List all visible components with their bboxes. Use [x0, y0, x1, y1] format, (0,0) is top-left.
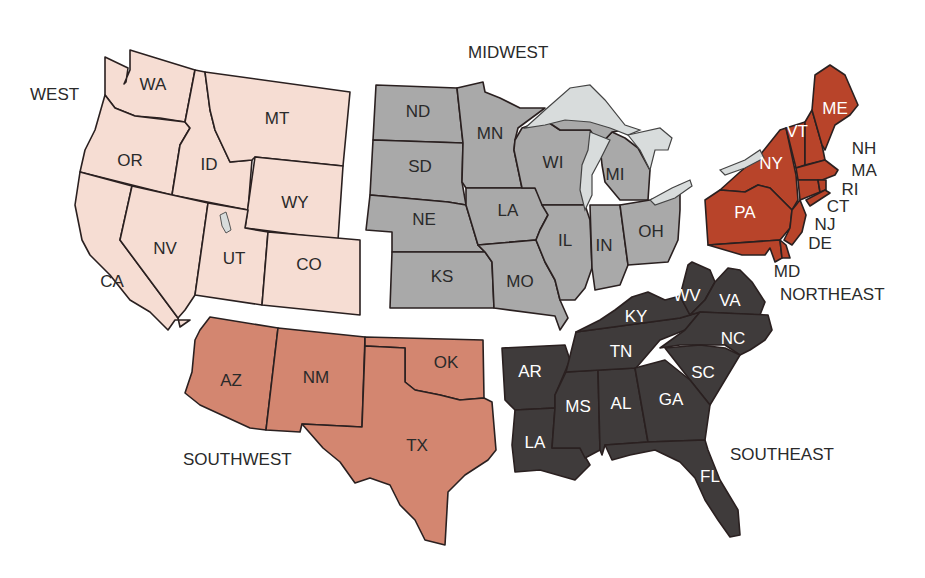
state-label: MO: [506, 272, 533, 291]
state-label: ME: [822, 99, 848, 118]
state-label: CA: [100, 272, 124, 291]
state-label: VT: [786, 122, 808, 141]
state-label: AR: [518, 362, 542, 381]
state-label: LA: [525, 433, 546, 452]
state-label: TX: [406, 436, 428, 455]
state-label: NM: [303, 368, 329, 387]
state-label: IN: [596, 236, 613, 255]
region-southwest: [185, 317, 496, 545]
state-label: OH: [638, 222, 664, 241]
region-label-southwest: SOUTHWEST: [183, 450, 292, 469]
state-fl[interactable]: [605, 440, 740, 537]
state-label: CO: [296, 255, 322, 274]
state-label: ND: [406, 102, 431, 121]
state-label: SC: [691, 363, 715, 382]
state-label: WI: [543, 153, 564, 172]
state-label: VA: [719, 291, 741, 310]
region-label-west: WEST: [30, 85, 79, 104]
state-label: MN: [477, 124, 503, 143]
state-label: KS: [431, 267, 454, 286]
state-label: MI: [606, 165, 625, 184]
state-label: WV: [673, 286, 701, 305]
state-label: KY: [625, 307, 648, 326]
state-label: PA: [734, 203, 756, 222]
state-label: SD: [408, 157, 432, 176]
state-label: UT: [223, 249, 246, 268]
state-label: NY: [759, 154, 783, 173]
us-regions-map: WEST MIDWEST NORTHEAST SOUTHWEST SOUTHEA…: [0, 0, 925, 578]
state-label: NC: [721, 329, 746, 348]
state-label: AL: [611, 394, 632, 413]
state-label: LA: [498, 201, 519, 220]
state-label: MD: [774, 262, 800, 281]
region-label-northeast: NORTHEAST: [780, 285, 885, 304]
state-label: GA: [659, 390, 684, 409]
state-label: MT: [265, 109, 290, 128]
state-label: TN: [610, 342, 633, 361]
region-label-southeast: SOUTHEAST: [730, 445, 834, 464]
state-label: NE: [412, 210, 436, 229]
state-label: NV: [153, 239, 177, 258]
state-label: CT: [827, 197, 850, 216]
state-label: DE: [808, 234, 832, 253]
state-label: MS: [565, 397, 591, 416]
state-label: FL: [700, 467, 720, 486]
state-label: NJ: [815, 215, 836, 234]
state-label: OR: [117, 151, 143, 170]
state-label: ID: [201, 155, 218, 174]
region-label-midwest: MIDWEST: [468, 43, 548, 62]
state-label: AZ: [220, 371, 242, 390]
state-label: IL: [558, 231, 572, 250]
state-label: MA: [851, 161, 877, 180]
state-label: NH: [852, 139, 877, 158]
state-label: WA: [140, 75, 167, 94]
state-label: OK: [434, 353, 459, 372]
state-label: WY: [281, 193, 308, 212]
